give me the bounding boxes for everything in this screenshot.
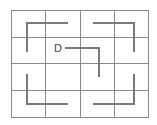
point-label-d: D: [54, 42, 62, 54]
maze-diagram: D: [0, 0, 157, 125]
bottom-right-corner-path: [93, 74, 134, 104]
bottom-left-corner-path: [27, 74, 68, 104]
center-d-path: [65, 48, 99, 77]
